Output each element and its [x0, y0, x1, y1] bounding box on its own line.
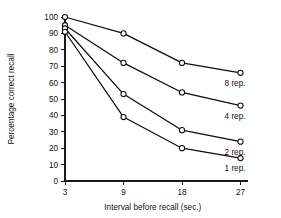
series-marker — [121, 91, 126, 96]
y-axis: 0102030405060708090100 — [44, 13, 65, 186]
series-marker — [238, 139, 243, 144]
y-tick-label: 90 — [49, 29, 59, 38]
series-line — [65, 28, 241, 141]
recall-line-chart: 0102030405060708090100 391827 8 rep.4 re… — [0, 0, 281, 218]
series-marker — [238, 103, 243, 108]
x-axis-title: Interval before recall (sec.) — [104, 203, 201, 212]
y-tick-label: 60 — [49, 79, 59, 88]
y-tick-label: 50 — [49, 95, 59, 104]
series-marker — [121, 114, 126, 119]
series-line — [65, 25, 241, 105]
series-label: 2 rep. — [225, 148, 246, 157]
series-marker — [62, 29, 67, 34]
y-tick-label: 0 — [53, 177, 58, 186]
series-marker — [121, 31, 126, 36]
series-line — [65, 32, 241, 158]
y-tick-label: 30 — [49, 128, 59, 137]
chart-canvas: 0102030405060708090100 391827 8 rep.4 re… — [0, 0, 281, 218]
y-tick-label: 40 — [49, 111, 59, 120]
x-tick-label: 27 — [236, 188, 246, 197]
y-tick-label: 20 — [49, 144, 59, 153]
series-line — [65, 17, 241, 73]
y-tick-label: 100 — [44, 13, 58, 22]
y-tick-label: 80 — [49, 46, 59, 55]
x-tick-label: 3 — [63, 188, 68, 197]
series-marker — [179, 128, 184, 133]
series-label: 1 rep. — [225, 164, 246, 173]
series-marker — [179, 60, 184, 65]
x-axis: 391827 — [63, 181, 248, 197]
series-label: 4 rep. — [225, 112, 246, 121]
series-marker — [179, 146, 184, 151]
series-marker — [62, 14, 67, 19]
series-label: 8 rep. — [225, 79, 246, 88]
y-tick-label: 10 — [49, 161, 59, 170]
series-marker — [121, 60, 126, 65]
x-tick-label: 18 — [177, 188, 187, 197]
y-axis-title: Percentage correct recall — [7, 53, 16, 144]
series-marker — [179, 90, 184, 95]
x-tick-label: 9 — [121, 188, 126, 197]
series-container — [62, 14, 243, 160]
series-marker — [238, 70, 243, 75]
y-tick-label: 70 — [49, 62, 59, 71]
